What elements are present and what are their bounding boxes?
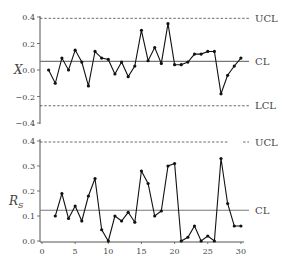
x-chart-point [133,64,136,67]
rs-chart-cl-label: CL [255,205,270,216]
x-chart-y-label: X [13,63,23,77]
x-chart-series-line [49,24,241,94]
x-tick-label: 10 [103,247,113,256]
rs-chart-point [74,204,77,207]
x-chart-point [60,56,63,59]
x-chart-panel: 0.40.20.0−0.2−0.4 X UCL CL LCL [13,13,278,128]
x-chart-point [100,56,103,59]
x-tick-label: 15 [136,247,146,256]
x-chart-point [193,53,196,56]
x-chart-point [120,60,123,63]
rs-chart-point [160,209,163,212]
x-chart-point [166,22,169,25]
rs-chart-point [113,214,116,217]
x-chart-point [107,58,110,61]
y-tick-label: −0.4 [16,119,35,128]
x-chart-point [226,74,229,77]
rs-chart-point [200,239,203,242]
rs-chart-point [213,239,216,242]
y-tick-label: 0.2 [22,40,35,49]
rs-chart-point [120,219,123,222]
y-tick-label: −0.2 [16,93,35,102]
x-tick-label: 5 [73,247,78,256]
rs-chart-point [219,157,222,160]
x-chart-point [140,29,143,32]
x-chart-point [160,62,163,65]
x-chart-point [200,53,203,56]
x-tick-label: 25 [203,247,213,256]
rs-chart-point [93,177,96,180]
x-tick-label: 0 [39,247,44,256]
rs-chart-point [107,239,110,242]
x-chart-point [213,50,216,53]
x-chart-point [233,64,236,67]
x-chart-point [219,92,222,95]
x-chart-point [186,60,189,63]
x-chart-point [87,84,90,87]
y-tick-label: 0.2 [22,187,35,196]
y-tick-label: 0.4 [22,137,35,146]
y-tick-label: 0.1 [22,212,35,221]
rs-chart-panel: 0.40.30.20.10.0 051015202530 RS UCL CL [8,137,278,257]
rs-chart-y-label: RS [8,194,24,210]
x-chart-cl-label: CL [255,56,270,67]
rs-chart-point [153,214,156,217]
y-tick-label: 0.0 [22,237,35,246]
x-chart-point [173,63,176,66]
rs-chart-point [127,211,130,214]
rs-chart-point [193,224,196,227]
rs-chart-point [180,239,183,242]
rs-chart-point [146,182,149,185]
x-chart-lcl-label: LCL [255,100,276,111]
rs-chart-series-line [55,159,241,242]
rs-chart-point [166,164,169,167]
rs-chart-point [186,236,189,239]
rs-chart-point [226,202,229,205]
y-tick-label: 0.0 [22,66,35,75]
x-chart-point [113,72,116,75]
rs-chart-point [80,219,83,222]
rs-chart-point [67,217,70,220]
x-chart-ucl-label: UCL [255,13,278,24]
rs-chart-ucl-label: UCL [255,137,278,148]
rs-chart-y-ticks: 0.40.30.20.10.0 [22,137,40,246]
x-chart-point [239,56,242,59]
x-chart-point [127,75,130,78]
rs-chart-point [100,228,103,231]
rs-chart-x-ticks: 051015202530 [39,242,246,256]
x-chart-markers [47,22,242,95]
y-tick-label: 0.3 [22,162,35,171]
x-chart-point [80,60,83,63]
y-tick-label: 0.4 [22,13,35,22]
rs-chart-point [87,194,90,197]
rs-chart-point [54,214,57,217]
x-chart-point [74,49,77,52]
x-chart-point [146,59,149,62]
x-tick-label: 20 [170,247,180,256]
x-chart-point [153,46,156,49]
rs-chart-point [233,224,236,227]
rs-chart-point [133,221,136,224]
rs-chart-point [173,162,176,165]
x-chart-point [93,50,96,53]
x-tick-label: 30 [236,247,246,256]
x-chart-point [47,68,50,71]
rs-chart-point [60,192,63,195]
rs-chart-point [239,224,242,227]
rs-chart-point [206,234,209,237]
rs-chart-markers [54,157,243,243]
control-chart: 0.40.20.0−0.2−0.4 X UCL CL LCL 0.40.30.2… [0,0,283,261]
x-chart-point [67,68,70,71]
x-chart-point [180,63,183,66]
x-chart-point [206,50,209,53]
rs-chart-point [140,169,143,172]
x-chart-point [54,82,57,85]
